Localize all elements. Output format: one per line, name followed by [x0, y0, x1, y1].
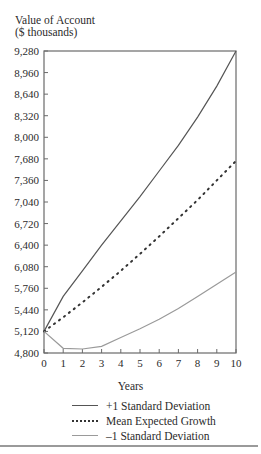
legend-item-mean: Mean Expected Growth [72, 413, 216, 428]
x-tick-label: 9 [214, 357, 220, 369]
plus-1sd-line [44, 51, 236, 331]
legend-label: Mean Expected Growth [106, 415, 216, 427]
bottom-divider [0, 445, 258, 447]
y-tick-label: 8,320 [14, 110, 39, 122]
y-tick-label: 6,720 [14, 218, 39, 230]
x-tick-label: 2 [80, 357, 86, 369]
y-tick-label: 5,760 [14, 282, 39, 294]
legend-label: +1 Standard Deviation [106, 400, 210, 412]
x-tick-label: 10 [231, 357, 243, 369]
x-tick-label: 1 [60, 357, 66, 369]
y-tick-label: 4,800 [14, 347, 39, 359]
y-tick-label: 7,040 [14, 196, 39, 208]
y-tick-label: 9,280 [14, 45, 39, 57]
legend-label: –1 Standard Deviation [106, 430, 209, 442]
line-chart: 4,8005,1205,4405,7606,0806,4006,7207,040… [0, 0, 261, 380]
plot-frame [44, 51, 236, 353]
x-tick-label: 5 [137, 357, 143, 369]
legend: +1 Standard Deviation Mean Expected Grow… [72, 398, 216, 443]
y-tick-label: 8,960 [14, 67, 39, 79]
y-tick-label: 8,000 [14, 131, 39, 143]
y-tick-label: 7,680 [14, 153, 39, 165]
y-tick-label: 6,080 [14, 261, 39, 273]
mean-growth-line [44, 161, 236, 332]
y-tick-label: 7,360 [14, 174, 39, 186]
x-tick-label: 7 [176, 357, 182, 369]
y-tick-label: 5,440 [14, 304, 39, 316]
y-tick-label: 5,120 [14, 325, 39, 337]
solid-line-swatch-icon [72, 405, 98, 406]
dotted-line-swatch-icon [72, 420, 98, 422]
y-tick-label: 6,400 [14, 239, 39, 251]
x-tick-label: 4 [118, 357, 124, 369]
light-line-swatch-icon [72, 435, 98, 436]
y-tick-label: 8,640 [14, 88, 39, 100]
x-axis-label: Years [0, 380, 261, 392]
x-tick-label: 6 [156, 357, 162, 369]
legend-item-plus-1sd: +1 Standard Deviation [72, 398, 216, 413]
x-tick-label: 8 [195, 357, 201, 369]
legend-item-minus-1sd: –1 Standard Deviation [72, 428, 216, 443]
x-tick-label: 3 [99, 357, 105, 369]
x-tick-label: 0 [41, 357, 47, 369]
